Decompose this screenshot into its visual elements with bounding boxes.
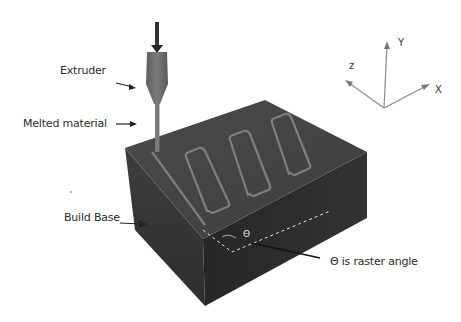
axis-y-label: Y xyxy=(398,37,404,48)
melted-material-label: Melted material xyxy=(23,117,107,130)
coordinate-axes xyxy=(345,41,430,108)
raster-angle-label: Θ is raster angle xyxy=(330,255,418,268)
extruder xyxy=(146,22,168,152)
fdm-diagram: Extruder Melted material Build Base Θ Θ … xyxy=(0,0,461,322)
axis-z-label: z xyxy=(349,60,354,71)
axis-x-label: X xyxy=(435,84,442,95)
build-base-label: Build Base xyxy=(64,211,120,224)
extruder-label: Extruder xyxy=(60,64,106,77)
melted-material-stream xyxy=(155,104,160,152)
theta-symbol-label: Θ xyxy=(243,229,250,239)
diagram-canvas xyxy=(0,0,461,322)
